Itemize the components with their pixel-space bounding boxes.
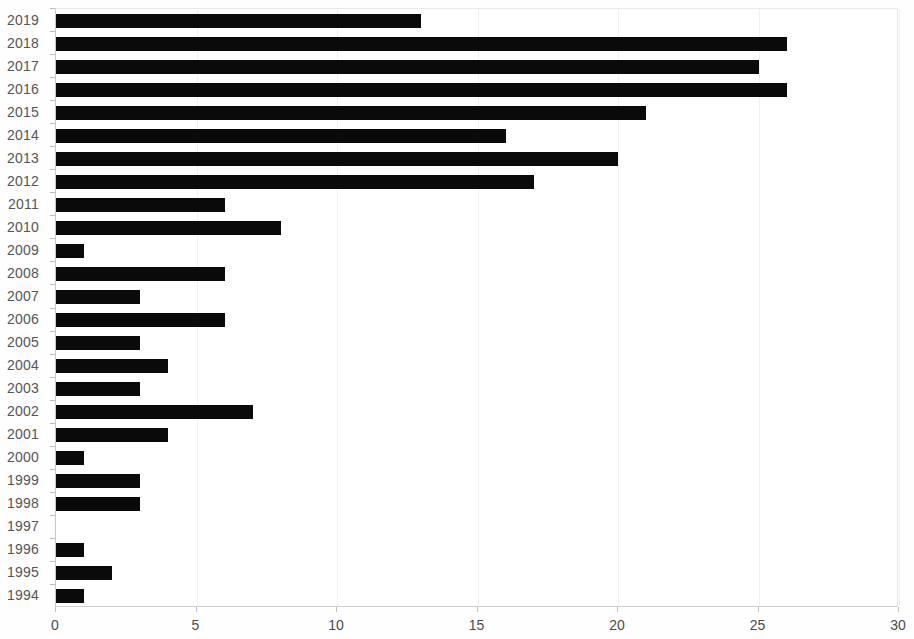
bar (56, 290, 140, 304)
gridline-x-30 (899, 9, 900, 606)
y-axis-category-labels: 2019201820172016201520142013201220112010… (0, 8, 47, 607)
y-axis-label: 2007 (7, 288, 39, 304)
y-axis-tick (50, 31, 55, 32)
y-axis-label: 2006 (7, 311, 39, 327)
bar (56, 405, 253, 419)
gridline-x-20 (618, 9, 619, 606)
y-axis-label: 2008 (7, 265, 39, 281)
x-axis-label: 20 (609, 617, 625, 633)
x-axis-label: 25 (750, 617, 766, 633)
y-axis-tick (50, 308, 55, 309)
y-axis-tick (50, 215, 55, 216)
x-axis-label: 0 (51, 617, 59, 633)
bar (56, 474, 140, 488)
y-axis-label: 2000 (7, 449, 39, 465)
x-axis-label: 10 (328, 617, 344, 633)
y-axis-label: 2014 (7, 127, 39, 143)
y-axis-label: 1996 (7, 541, 39, 557)
x-axis-label: 15 (469, 617, 485, 633)
y-axis-label: 1998 (7, 495, 39, 511)
x-axis-tick (477, 607, 478, 612)
bar (56, 83, 787, 97)
x-axis-tick (758, 607, 759, 612)
bar (56, 543, 84, 557)
y-axis-tick (50, 146, 55, 147)
y-axis-tick (50, 561, 55, 562)
y-axis-tick (50, 8, 55, 9)
y-axis-tick (50, 169, 55, 170)
y-axis-tick (50, 192, 55, 193)
bar (56, 497, 140, 511)
y-axis-label: 2019 (7, 12, 39, 28)
y-axis-tick (50, 123, 55, 124)
plot-area (55, 8, 898, 607)
gridline-x-25 (759, 9, 760, 606)
y-axis-label: 2001 (7, 426, 39, 442)
y-axis-tick (50, 77, 55, 78)
x-axis-tick (196, 607, 197, 612)
y-axis-label: 1994 (7, 587, 39, 603)
y-axis-label: 2017 (7, 58, 39, 74)
y-axis-tick (50, 515, 55, 516)
bar (56, 359, 168, 373)
y-axis-tick (50, 538, 55, 539)
bar (56, 428, 168, 442)
y-axis-label: 2013 (7, 150, 39, 166)
bar (56, 267, 225, 281)
bar (56, 244, 84, 258)
y-axis-tick (50, 377, 55, 378)
y-axis-label: 2002 (7, 403, 39, 419)
bar (56, 14, 421, 28)
y-axis-label: 2005 (7, 334, 39, 350)
x-axis-label: 30 (890, 617, 906, 633)
y-axis-tick (50, 284, 55, 285)
y-axis-tick (50, 423, 55, 424)
bar (56, 313, 225, 327)
bar (56, 60, 759, 74)
y-axis-tick (50, 261, 55, 262)
x-axis-label: 5 (192, 617, 200, 633)
y-axis-label: 2011 (8, 196, 39, 212)
bar (56, 152, 618, 166)
bar (56, 37, 787, 51)
bar (56, 589, 84, 603)
bar (56, 221, 281, 235)
bar (56, 129, 506, 143)
y-axis-label: 1999 (7, 472, 39, 488)
y-axis-tick (50, 446, 55, 447)
bar (56, 106, 646, 120)
x-axis-tick (898, 607, 899, 612)
y-axis-tick (50, 400, 55, 401)
bar (56, 198, 225, 212)
y-axis-tick (50, 492, 55, 493)
y-axis-tick (50, 238, 55, 239)
y-axis-label: 2004 (7, 357, 39, 373)
bar (56, 382, 140, 396)
y-axis-label: 1997 (7, 518, 39, 534)
gridline-x-15 (478, 9, 479, 606)
gridline-x-10 (337, 9, 338, 606)
y-axis-tick (50, 469, 55, 470)
bar (56, 175, 534, 189)
bar (56, 451, 84, 465)
y-axis-label: 2009 (7, 242, 39, 258)
y-axis-tick (50, 100, 55, 101)
y-axis-tick (50, 331, 55, 332)
y-axis-tick (50, 584, 55, 585)
y-axis-tick (50, 54, 55, 55)
bar-chart: 2019201820172016201520142013201220112010… (0, 0, 914, 639)
x-axis-tick (336, 607, 337, 612)
y-axis-tick (50, 354, 55, 355)
y-axis-label: 1995 (7, 564, 39, 580)
bar (56, 566, 112, 580)
y-axis-label: 2015 (7, 104, 39, 120)
y-axis-label: 2012 (7, 173, 39, 189)
y-axis-label: 2016 (7, 81, 39, 97)
y-axis-label: 2018 (7, 35, 39, 51)
gridline-x-5 (197, 9, 198, 606)
x-axis-tick (617, 607, 618, 612)
bar (56, 336, 140, 350)
x-axis-tick (55, 607, 56, 612)
y-axis-label: 2010 (7, 219, 39, 235)
y-axis-label: 2003 (7, 380, 39, 396)
